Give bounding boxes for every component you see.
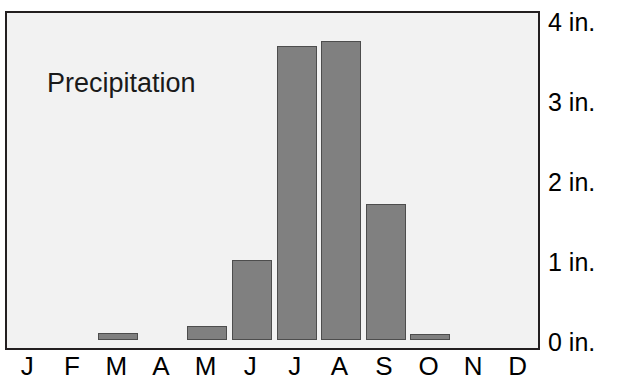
bar-column-o-9 [408,13,453,348]
bar-column-j-5 [230,13,275,348]
x-tick-label-may: M [183,352,228,381]
bar-column-a-7 [319,13,364,348]
bar-column-m-2 [96,13,141,348]
bar-column-f-1 [52,13,97,348]
y-tick-label-1: 1 in. [548,250,595,275]
x-tick-label-november: N [451,352,496,381]
bar-column-m-4 [185,13,230,348]
bar-column-j-6 [275,13,320,348]
bar-september [366,204,406,340]
bar-may [187,326,227,340]
x-tick-label-january: J [5,352,50,381]
x-axis: JFMAMJJASOND [5,352,540,381]
x-tick-label-february: F [50,352,95,381]
y-tick-label-0: 0 in. [548,330,595,355]
y-tick-label-3: 3 in. [548,90,595,115]
x-tick-label-december: D [495,352,540,381]
bar-column-s-8 [364,13,409,348]
bar-column-j-0 [7,13,52,348]
bar-column-a-3 [141,13,186,348]
y-axis: 0 in.1 in.2 in.3 in.4 in. [548,0,639,381]
plot-frame: Precipitation [5,11,540,350]
x-tick-label-august: A [317,352,362,381]
bar-column-n-10 [453,13,498,348]
x-tick-label-september: S [362,352,407,381]
bar-october [410,334,450,340]
plot-area [7,13,538,348]
y-tick-label-4: 4 in. [548,10,595,35]
bar-june [232,260,272,340]
x-tick-label-april: A [139,352,184,381]
chart-title: Precipitation [47,70,196,97]
y-tick-label-2: 2 in. [548,170,595,195]
bar-july [277,46,317,340]
x-tick-label-june: J [228,352,273,381]
x-tick-label-march: M [94,352,139,381]
bar-column-d-11 [497,13,542,348]
x-tick-label-october: O [406,352,451,381]
bar-march [98,333,138,340]
x-tick-label-july: J [273,352,318,381]
precipitation-bar-chart: Precipitation 0 in.1 in.2 in.3 in.4 in. … [0,0,639,381]
bar-august [321,41,361,340]
